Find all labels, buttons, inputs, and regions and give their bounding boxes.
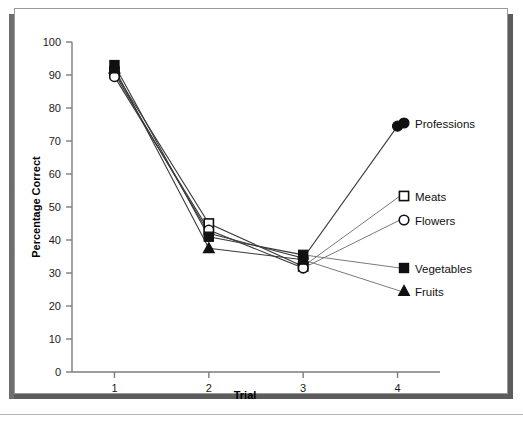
y-tick-label: 80: [49, 102, 61, 114]
series-lines: [114, 65, 397, 268]
legend-label-vegetables: Vegetables: [415, 263, 472, 275]
legend-marker-flowers: [399, 215, 409, 225]
y-tick-label: 60: [49, 168, 61, 180]
x-tick-label: 3: [300, 382, 306, 394]
x-tick-label: 1: [111, 382, 117, 394]
legend-marker-professions: [399, 118, 409, 128]
legend-item-vegetables: Vegetables: [399, 263, 472, 275]
x-axis-title: Trial: [234, 389, 257, 401]
y-tick-label: 10: [49, 333, 61, 345]
legend-label-meats: Meats: [415, 191, 447, 203]
legend-item-fruits: Fruits: [399, 285, 444, 297]
leader-line-vegetables: [303, 255, 400, 268]
legend: ProfessionsMeatsFlowersVegetablesFruits: [399, 118, 476, 298]
x-tick-label: 2: [206, 382, 212, 394]
y-axis-tick-labels: 0102030405060708090100: [43, 36, 61, 378]
legend-item-flowers: Flowers: [399, 215, 455, 227]
legend-label-flowers: Flowers: [415, 215, 456, 227]
line-chart: 0102030405060708090100 1234 Percentage C…: [0, 0, 523, 428]
legend-marker-vegetables: [399, 263, 408, 272]
y-tick-label: 40: [49, 234, 61, 246]
series-line-professions: [114, 73, 397, 258]
legend-marker-fruits: [399, 285, 410, 295]
leader-line-fruits: [303, 260, 400, 291]
legend-item-meats: Meats: [399, 191, 446, 203]
y-axis-ticks: [66, 42, 72, 372]
y-tick-label: 90: [49, 69, 61, 81]
legend-marker-meats: [399, 191, 408, 200]
leader-line-flowers: [303, 220, 400, 268]
legend-leader-lines: [303, 123, 400, 291]
y-tick-label: 50: [49, 201, 61, 213]
x-axis-ticks: [114, 372, 397, 378]
chart-axes: [66, 42, 440, 378]
y-tick-label: 70: [49, 135, 61, 147]
data-point-fruits-t2: [203, 243, 214, 253]
y-tick-label: 20: [49, 300, 61, 312]
y-axis-title: Percentage Correct: [30, 156, 42, 258]
legend-label-fruits: Fruits: [415, 286, 444, 298]
y-tick-label: 0: [55, 366, 61, 378]
legend-label-professions: Professions: [415, 118, 475, 130]
leader-line-meats: [303, 196, 400, 266]
legend-item-professions: Professions: [399, 118, 475, 130]
y-tick-label: 100: [43, 36, 61, 48]
data-point-vegetables-t2: [204, 232, 213, 241]
x-tick-label: 4: [394, 382, 400, 394]
y-tick-label: 30: [49, 267, 61, 279]
